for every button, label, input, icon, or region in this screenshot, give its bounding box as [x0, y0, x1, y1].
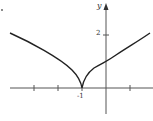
y-tick-label: 2 — [96, 29, 100, 37]
cusp-graph — [0, 0, 153, 121]
y-axis-arrow-icon — [104, 3, 109, 10]
y-axis-label: y — [97, 1, 102, 10]
function-curve — [10, 33, 150, 88]
marker-dot — [1, 9, 3, 11]
x-tick-label: -1 — [77, 92, 84, 100]
